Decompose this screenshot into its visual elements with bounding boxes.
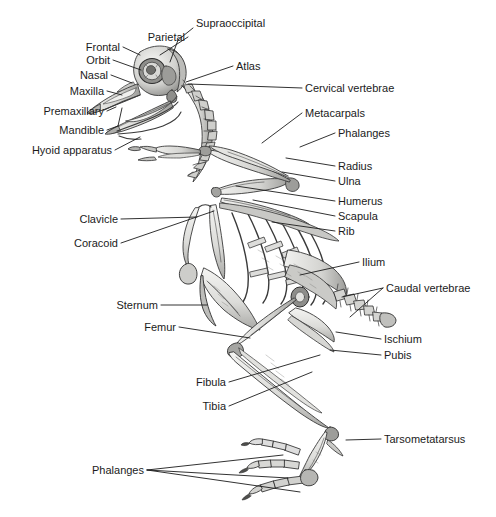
label-ulna: Ulna — [338, 175, 361, 187]
bird-skeleton-figure: SupraoccipitalParietalFrontalOrbitNasalM… — [0, 0, 496, 517]
label-ischium: Ischium — [384, 333, 422, 345]
label-radius: Radius — [338, 160, 372, 172]
label-femur: Femur — [144, 321, 176, 333]
label-mandible: Mandible — [59, 124, 104, 136]
label-frontal: Frontal — [86, 41, 120, 53]
label-cervical-vertebrae: Cervical vertebrae — [305, 82, 394, 94]
label-atlas: Atlas — [236, 60, 260, 72]
label-orbit: Orbit — [86, 54, 110, 66]
label-supraoccipital: Supraoccipital — [196, 17, 265, 29]
label-scapula: Scapula — [338, 210, 378, 222]
label-premaxillary: Premaxillary — [43, 105, 104, 117]
label-tibia: Tibia — [203, 400, 226, 412]
label-hyoid-apparatus: Hyoid apparatus — [32, 144, 112, 156]
label-parietal: Parietal — [148, 31, 185, 43]
label-tarsometatarsus: Tarsometatarsus — [384, 433, 465, 445]
label-coracoid: Coracoid — [74, 237, 118, 249]
label-fibula: Fibula — [196, 376, 226, 388]
label-humerus: Humerus — [338, 195, 383, 207]
label-phalanges-foot: Phalanges — [92, 464, 144, 476]
label-pubis: Pubis — [384, 349, 412, 361]
label-nasal: Nasal — [80, 69, 108, 81]
label-metacarpals: Metacarpals — [305, 107, 365, 119]
label-caudal-vertebrae: Caudal vertebrae — [386, 282, 470, 294]
label-clavicle: Clavicle — [79, 213, 118, 225]
label-phalanges-wing: Phalanges — [338, 127, 390, 139]
label-layer: SupraoccipitalParietalFrontalOrbitNasalM… — [0, 0, 496, 517]
label-rib: Rib — [338, 225, 355, 237]
label-maxilla: Maxilla — [70, 85, 104, 97]
label-ilium: Ilium — [362, 256, 385, 268]
label-sternum: Sternum — [116, 299, 158, 311]
